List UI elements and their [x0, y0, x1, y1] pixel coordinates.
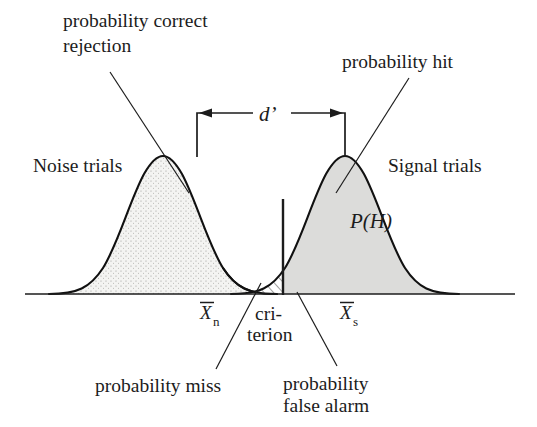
figure-canvas: d’ probability correct rejection probabi… [0, 0, 537, 427]
signal-curve-fill [231, 156, 459, 294]
false-alarm-leader [297, 292, 337, 366]
false-alarm-label-line1: probability [283, 373, 369, 394]
hit-label: probability hit [342, 51, 454, 72]
noise-curve-fill [49, 156, 277, 294]
d-prime-left-arrowhead [199, 109, 212, 118]
p-hit-area-label: P(H) [349, 209, 392, 233]
d-prime-left-arm [197, 113, 253, 157]
mean-signal-subscript: s [353, 314, 358, 329]
miss-label: probability miss [95, 375, 221, 396]
correct-rejection-label-line1: probability correct [63, 10, 208, 31]
mean-signal-label: X s [339, 302, 358, 329]
noise-distribution [49, 156, 277, 294]
signal-distribution [231, 156, 459, 294]
d-prime-right-arrowhead [330, 109, 343, 118]
false-alarm-label-line2: false alarm [283, 395, 369, 416]
mean-signal-base: X [339, 302, 353, 323]
d-prime-right-arm [291, 113, 345, 157]
mean-noise-base: X [199, 302, 213, 323]
d-prime-label: d’ [259, 102, 277, 126]
criterion-label-line2: terion [247, 324, 293, 345]
mean-noise-label: X n [199, 302, 220, 329]
noise-trials-label: Noise trials [33, 155, 122, 176]
d-prime-bracket: d’ [197, 102, 345, 157]
correct-rejection-label-line2: rejection [63, 35, 131, 56]
mean-noise-subscript: n [213, 314, 220, 329]
criterion-label-line1: cri- [255, 303, 282, 324]
signal-trials-label: Signal trials [388, 155, 482, 176]
sdt-diagram-svg: d’ probability correct rejection probabi… [0, 0, 537, 427]
